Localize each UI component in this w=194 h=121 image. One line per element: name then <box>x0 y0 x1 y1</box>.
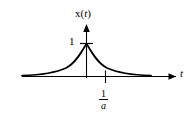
plot-canvas <box>0 0 194 121</box>
y-axis-title: x(t) <box>75 8 91 19</box>
amplitude-tick-label: 1 <box>69 36 75 47</box>
fraction-denominator: a <box>99 100 108 112</box>
exponential-decay-figure: x(t) 1 t 1 a <box>0 0 194 121</box>
x-axis-title: t <box>180 68 183 79</box>
time-constant-label: 1 a <box>99 88 108 112</box>
fraction-numerator: 1 <box>99 88 108 100</box>
x-axis-arrowhead <box>169 73 177 80</box>
y-axis-title-prefix: x( <box>75 7 84 19</box>
y-axis-arrowhead <box>83 24 90 32</box>
y-axis-title-suffix: ) <box>87 7 91 19</box>
